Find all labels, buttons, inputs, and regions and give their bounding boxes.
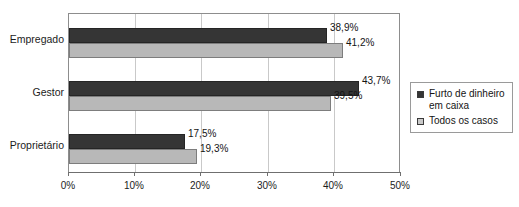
value-label-gestor-furto: 43,7%	[362, 75, 390, 86]
bar-empregado-furto	[69, 28, 327, 43]
legend-swatch-dark-icon	[417, 91, 424, 98]
x-tick-label-0: 0%	[61, 180, 75, 191]
chart-legend: Furto de dinheiroem caixa Todos os casos	[410, 82, 513, 133]
value-label-empregado-furto: 38,9%	[330, 22, 358, 33]
category-label-gestor: Gestor	[0, 86, 64, 98]
value-label-gestor-todos: 39,5%	[334, 90, 362, 101]
value-label-proprietario-todos: 19,3%	[200, 143, 228, 154]
bar-gestor-todos	[69, 96, 331, 111]
bar-proprietario-todos	[69, 149, 197, 164]
x-tick-20	[200, 172, 201, 176]
x-tick-10	[134, 172, 135, 176]
value-label-empregado-todos: 41,2%	[346, 37, 374, 48]
category-label-proprietario: Proprietário	[0, 139, 64, 151]
bar-proprietario-furto	[69, 134, 185, 149]
legend-entry-todos: Todos os casos	[417, 115, 507, 127]
legend-label-furto-line2: em caixa	[429, 100, 469, 111]
legend-label-todos: Todos os casos	[429, 115, 498, 127]
legend-entry-furto: Furto de dinheiroem caixa	[417, 88, 507, 111]
x-tick-label-40: 40%	[323, 180, 343, 191]
x-tick-label-10: 10%	[124, 180, 144, 191]
x-tick-50	[400, 172, 401, 176]
bar-empregado-todos	[69, 43, 343, 58]
legend-label-furto: Furto de dinheiroem caixa	[429, 88, 505, 111]
x-axis-line	[68, 172, 400, 173]
x-tick-0	[68, 172, 69, 176]
value-label-proprietario-furto: 17,5%	[188, 128, 216, 139]
legend-label-furto-line1: Furto de dinheiro	[429, 88, 505, 99]
category-label-empregado: Empregado	[0, 33, 64, 45]
bar-gestor-furto	[69, 81, 359, 96]
x-tick-label-20: 20%	[190, 180, 210, 191]
x-tick-label-30: 30%	[257, 180, 277, 191]
x-tick-label-50: 50%	[390, 180, 410, 191]
legend-swatch-light-icon	[417, 118, 424, 125]
x-tick-30	[267, 172, 268, 176]
bar-chart: Empregado Gestor Proprietário 38,9% 41,2…	[0, 0, 519, 207]
x-tick-40	[333, 172, 334, 176]
